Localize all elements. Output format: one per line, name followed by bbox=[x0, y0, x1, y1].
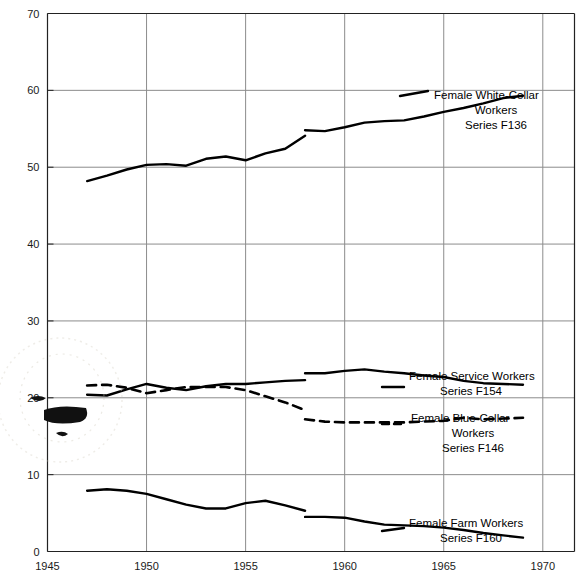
legend-marker-1 bbox=[400, 91, 428, 96]
y-tick-label: 10 bbox=[27, 469, 39, 481]
scan-artifact bbox=[0, 338, 122, 462]
series-label-1-line-2: Workers bbox=[475, 104, 518, 116]
series-labels: Female White-CollarWorkersSeries F136Fem… bbox=[382, 89, 539, 544]
scan-smudge bbox=[0, 338, 122, 462]
series-label-3-line-3: Series F146 bbox=[442, 442, 504, 454]
series-line-1 bbox=[87, 136, 305, 181]
y-tick-label: 0 bbox=[33, 546, 39, 558]
x-tick-label: 1960 bbox=[332, 560, 356, 572]
smudge-blob-main bbox=[44, 406, 87, 423]
y-tick-label: 30 bbox=[27, 315, 39, 327]
series-label-1-line-1: Female White-Collar bbox=[434, 89, 539, 101]
legend-marker-4 bbox=[382, 528, 404, 531]
x-tick-label: 1965 bbox=[431, 560, 455, 572]
chart-figure: 010203040506070 194519501955196019651970… bbox=[0, 0, 578, 582]
y-tick-label: 50 bbox=[27, 161, 39, 173]
x-tick-label: 1955 bbox=[233, 560, 257, 572]
y-tick-label: 60 bbox=[27, 84, 39, 96]
smudge-blob-small bbox=[56, 432, 68, 437]
series-label-4-line-1: Female Farm Workers bbox=[409, 517, 523, 529]
y-tick-label: 70 bbox=[27, 8, 39, 20]
line-chart-canvas: 010203040506070 194519501955196019651970… bbox=[0, 0, 578, 582]
series-label-4-line-2: Series F160 bbox=[440, 532, 502, 544]
series-label-1-line-3: Series F136 bbox=[465, 119, 527, 131]
series-label-2-line-2: Series F154 bbox=[440, 385, 503, 397]
x-tick-label: 1970 bbox=[531, 560, 555, 572]
x-tick-label: 1945 bbox=[35, 560, 59, 572]
series-line-4 bbox=[87, 489, 305, 511]
series-label-3-line-2: Workers bbox=[452, 427, 495, 439]
series-label-3-line-1: Female Blue-Collar bbox=[411, 412, 510, 424]
y-axis-ticks: 010203040506070 bbox=[27, 8, 53, 558]
x-tick-label: 1950 bbox=[134, 560, 158, 572]
y-tick-label: 40 bbox=[27, 238, 39, 250]
data-series bbox=[87, 96, 523, 538]
x-axis-ticks: 194519501955196019651970 bbox=[35, 560, 555, 572]
smudge-ring-outer bbox=[0, 338, 122, 462]
series-label-2-line-1: Female Service Workers bbox=[409, 370, 535, 382]
